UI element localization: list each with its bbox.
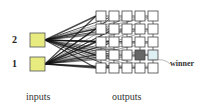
input-nodes (30, 33, 45, 71)
outputs-caption: outputs (112, 91, 141, 102)
output-neuron (122, 37, 132, 47)
output-neuron (135, 37, 145, 47)
output-neuron (135, 63, 145, 73)
output-neuron (148, 24, 158, 34)
output-neuron (122, 50, 132, 60)
output-grid (96, 11, 158, 73)
output-neuron (96, 50, 106, 60)
output-neuron (122, 11, 132, 21)
output-neuron (96, 11, 106, 21)
output-neuron (135, 11, 145, 21)
input-node (30, 57, 45, 71)
output-neuron (109, 63, 119, 73)
output-neuron (122, 24, 132, 34)
output-neuron (109, 50, 119, 60)
inputs-caption: inputs (26, 91, 50, 102)
output-neuron (135, 24, 145, 34)
output-neuron (122, 63, 132, 73)
output-neuron (148, 37, 158, 47)
output-neuron (96, 63, 106, 73)
input-label-2: 2 (12, 34, 17, 45)
output-neuron (148, 11, 158, 21)
winner-caption: winner (170, 59, 194, 68)
output-neuron (96, 24, 106, 34)
output-neuron (109, 24, 119, 34)
output-neuron (148, 63, 158, 73)
input-node (30, 33, 45, 47)
output-neuron (109, 37, 119, 47)
output-neuron (109, 11, 119, 21)
winner-neuron (135, 50, 145, 60)
input-label-1: 1 (12, 58, 17, 69)
output-neuron (96, 37, 106, 47)
neighbor-neuron (148, 50, 158, 60)
